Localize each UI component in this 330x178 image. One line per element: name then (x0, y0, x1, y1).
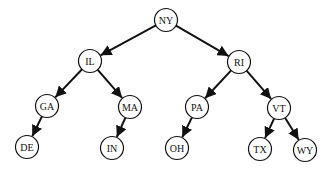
tree-node-wy: WY (294, 139, 317, 162)
nodes-layer: NYILRIGAMAPAVTDEINOHTXWY (16, 9, 317, 162)
edges-layer (32, 25, 298, 139)
node-label: DE (20, 142, 33, 153)
edge-pa-oh (182, 117, 192, 137)
node-label: RI (234, 57, 244, 68)
node-label: MA (122, 102, 139, 113)
edge-ri-pa (205, 70, 231, 98)
node-label: NY (159, 15, 173, 26)
node-label: PA (191, 102, 204, 113)
edge-ma-in (117, 118, 126, 137)
tree-node-oh: OH (166, 137, 189, 160)
node-label: WY (297, 145, 314, 156)
tree-node-ma: MA (119, 96, 142, 119)
tree-node-ga: GA (36, 95, 59, 118)
tree-node-in: IN (101, 137, 124, 160)
node-label: IL (85, 56, 94, 67)
edge-il-ga (55, 69, 82, 97)
binary-tree-diagram: NYILRIGAMAPAVTDEINOHTXWY (0, 0, 330, 178)
node-label: GA (40, 101, 55, 112)
edge-vt-tx (265, 118, 274, 138)
tree-node-pa: PA (186, 96, 209, 119)
node-label: VT (272, 103, 285, 114)
edge-il-ma (98, 70, 123, 98)
tree-node-ny: NY (155, 9, 178, 32)
edge-ri-vt (247, 71, 272, 99)
tree-node-ri: RI (228, 51, 251, 74)
node-label: IN (107, 143, 118, 154)
tree-node-il: IL (79, 50, 102, 73)
node-label: TX (253, 144, 267, 155)
edge-vt-wy (285, 118, 299, 140)
tree-node-de: DE (16, 136, 39, 159)
tree-node-vt: VT (268, 97, 291, 120)
node-label: OH (170, 143, 184, 154)
edge-ga-de (32, 116, 42, 136)
tree-node-tx: TX (249, 138, 272, 161)
edge-ny-ri (176, 26, 229, 56)
edge-ny-il (101, 25, 156, 55)
